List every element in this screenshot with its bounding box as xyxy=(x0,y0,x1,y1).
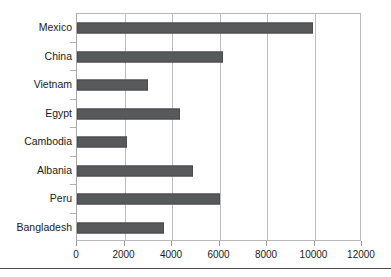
x-axis-tick-label: 2000 xyxy=(112,249,134,260)
y-axis-tick xyxy=(70,99,76,100)
x-axis-tick xyxy=(314,241,315,246)
x-axis-tick xyxy=(219,241,220,246)
gridline xyxy=(315,14,316,240)
gridline xyxy=(172,14,173,240)
bar xyxy=(77,108,180,119)
x-axis-tick xyxy=(171,241,172,246)
chart-figure: MexicoChinaVietnamEgyptCambodiaAlbaniaPe… xyxy=(0,0,391,277)
y-axis-label: Egypt xyxy=(0,107,72,119)
bar xyxy=(77,165,193,176)
y-axis-tick xyxy=(70,213,76,214)
bottom-rule xyxy=(0,268,391,269)
y-axis-label: Vietnam xyxy=(0,78,72,90)
plot-area xyxy=(76,13,361,241)
x-axis-tick xyxy=(266,241,267,246)
y-axis-tick xyxy=(70,127,76,128)
y-axis-label: China xyxy=(0,50,72,62)
gridline xyxy=(267,14,268,240)
y-axis-label: Cambodia xyxy=(0,135,72,147)
y-axis-label: Mexico xyxy=(0,21,72,33)
x-axis-tick-label: 0 xyxy=(73,249,79,260)
x-axis-tick-label: 4000 xyxy=(160,249,182,260)
bar xyxy=(77,51,223,62)
y-axis-tick xyxy=(70,70,76,71)
bar xyxy=(77,194,220,205)
x-axis-tick xyxy=(361,241,362,246)
bar xyxy=(77,137,127,148)
y-axis-label: Bangladesh xyxy=(0,221,72,233)
y-axis-tick xyxy=(70,42,76,43)
x-axis-tick-label: 12000 xyxy=(347,249,375,260)
y-axis-label: Albania xyxy=(0,164,72,176)
bar xyxy=(77,23,313,34)
x-axis-tick-label: 8000 xyxy=(255,249,277,260)
bar xyxy=(77,222,164,233)
gridline xyxy=(125,14,126,240)
x-axis-tick-label: 6000 xyxy=(207,249,229,260)
x-axis-tick xyxy=(76,241,77,246)
y-axis-category-labels: MexicoChinaVietnamEgyptCambodiaAlbaniaPe… xyxy=(0,13,72,241)
y-axis-tick xyxy=(70,156,76,157)
y-axis-label: Peru xyxy=(0,192,72,204)
gridline xyxy=(220,14,221,240)
bar xyxy=(77,80,148,91)
x-axis-tick xyxy=(124,241,125,246)
x-axis-tick-label: 10000 xyxy=(300,249,328,260)
y-axis-tick xyxy=(70,184,76,185)
